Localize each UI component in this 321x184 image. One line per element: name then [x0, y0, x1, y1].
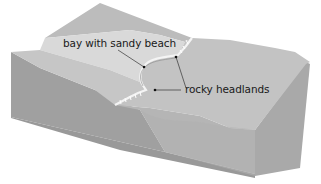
headland-leader-dot-upper [175, 56, 178, 59]
coastline-diagram: bay with sandy beach rocky headlands [0, 0, 321, 184]
bay-leader-dot [143, 66, 146, 69]
bay-label: bay with sandy beach [63, 38, 176, 49]
block-diagram-graphic [0, 0, 321, 184]
headland-leader-dot-lower [154, 89, 157, 92]
headlands-label: rocky headlands [185, 84, 269, 95]
